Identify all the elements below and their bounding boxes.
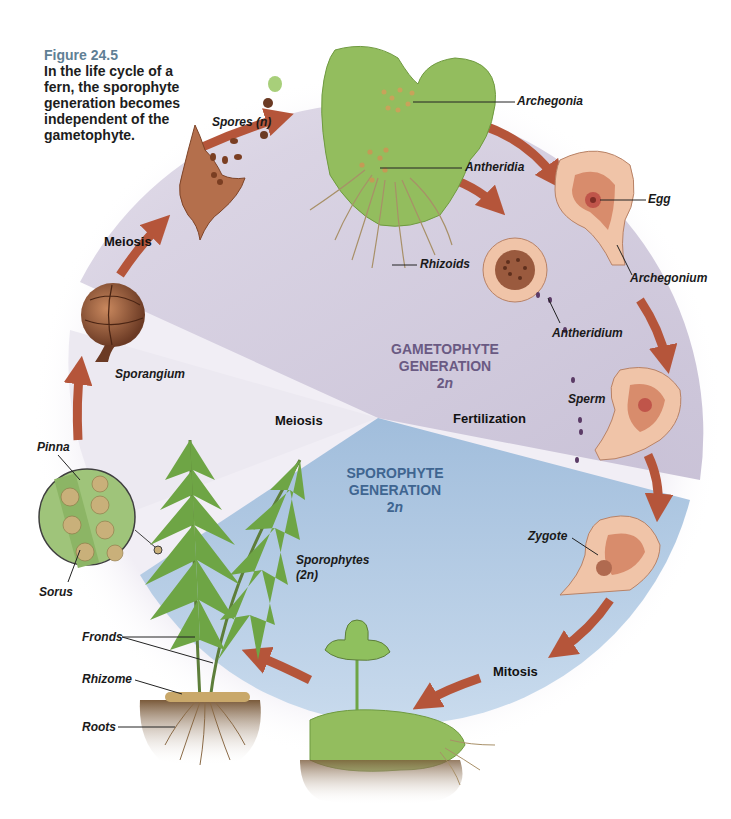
roots-label: Roots (82, 720, 116, 734)
sporophyte-generation-label: SPOROPHYTE GENERATION 2n (325, 465, 465, 516)
sporophyte-line1: SPOROPHYTE (325, 465, 465, 482)
gametophyte-line1: GAMETOPHYTE (375, 341, 515, 358)
arrow-to-sporangium (77, 370, 80, 440)
rhizome-label: Rhizome (82, 672, 132, 686)
meiosis-top-label: Meiosis (104, 234, 152, 249)
gametophyte-line2: GENERATION (375, 358, 515, 375)
sporophyte-line2: GENERATION (325, 482, 465, 499)
gametophyte-generation-label: GAMETOPHYTE GENERATION 2n (375, 341, 515, 392)
pinna-label: Pinna (37, 440, 70, 454)
antheridia-label: Antheridia (465, 160, 524, 174)
archegonium-label: Archegonium (630, 271, 707, 285)
rhizoids-label: Rhizoids (420, 257, 470, 271)
spores-label: Spores (n) (212, 115, 271, 129)
egg-label: Egg (648, 192, 671, 206)
antheridium-label: Antheridium (552, 326, 623, 340)
figure-number: Figure 24.5 (44, 47, 194, 63)
fern-life-cycle-figure: Figure 24.5 In the life cycle of a fern,… (0, 0, 731, 819)
sporophyte-ploidy: 2n (325, 499, 465, 516)
sperm-label: Sperm (568, 392, 605, 406)
mitosis-label: Mitosis (493, 664, 538, 679)
figure-caption-text: In the life cycle of a fern, the sporoph… (44, 63, 180, 143)
sporophytes-label: Sporophytes (296, 553, 369, 567)
zygote-label: Zygote (528, 529, 567, 543)
gametophyte-ploidy: 2n (375, 375, 515, 392)
meiosis-center-label: Meiosis (275, 413, 323, 428)
fronds-label: Fronds (82, 630, 123, 644)
fertilization-label: Fertilization (453, 411, 526, 426)
archegonia-label: Archegonia (517, 94, 583, 108)
sporangium-label: Sporangium (115, 367, 185, 381)
sporophytes-ploidy-label: (2n) (296, 568, 318, 582)
sorus-label: Sorus (39, 585, 73, 599)
figure-caption: Figure 24.5 In the life cycle of a fern,… (44, 47, 194, 143)
